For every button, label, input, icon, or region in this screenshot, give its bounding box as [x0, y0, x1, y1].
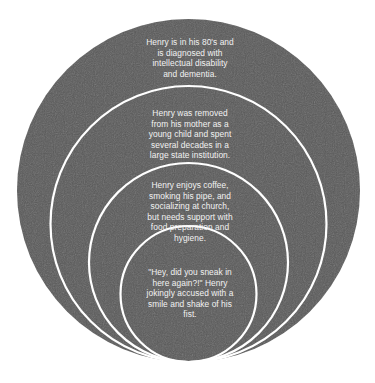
nested-circles-diagram: Henry is in his 80's and is diagnosed wi…	[0, 0, 375, 383]
layer-4-text: "Hey, did you sneak in here again?!" Hen…	[128, 267, 252, 320]
layer-4-line: here again?!" Henry	[128, 278, 252, 289]
layer-3-line: socializing at church,	[118, 201, 262, 212]
layer-1-line: and dementia.	[128, 69, 252, 80]
layer-2-line: from his mother as a	[118, 119, 262, 130]
layer-2-text: Henry was removed from his mother as a y…	[118, 108, 262, 161]
layer-1-line: intellectual disability	[128, 58, 252, 69]
layer-4-line: "Hey, did you sneak in	[128, 267, 252, 278]
layer-3-line: food preparation and	[118, 222, 262, 233]
layer-1-line: Henry is in his 80's and	[128, 37, 252, 48]
layer-1-text: Henry is in his 80's and is diagnosed wi…	[128, 37, 252, 79]
layer-4-line: smile and shake of his	[128, 299, 252, 310]
layer-2-line: Henry was removed	[118, 108, 262, 119]
layer-3-line: but needs support with	[118, 212, 262, 223]
layer-3-line: Henry enjoys coffee,	[118, 180, 262, 191]
layer-3-line: hygiene.	[118, 233, 262, 244]
layer-2-line: several decades in a	[118, 140, 262, 151]
layer-4-line: fist.	[128, 309, 252, 320]
layer-1-line: is diagnosed with	[128, 48, 252, 59]
layer-2-line: large state institution.	[118, 150, 262, 161]
layer-2-line: young child and spent	[118, 129, 262, 140]
layer-3-line: smoking his pipe, and	[118, 191, 262, 202]
layer-4-line: jokingly accused with a	[128, 288, 252, 299]
layer-3-text: Henry enjoys coffee, smoking his pipe, a…	[118, 180, 262, 244]
